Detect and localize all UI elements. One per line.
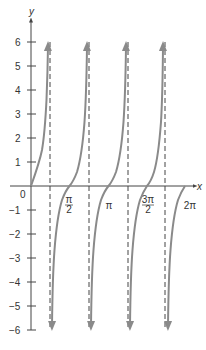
origin-label: 0	[20, 189, 26, 200]
svg-text:5: 5	[15, 61, 21, 72]
svg-text:2π: 2π	[184, 200, 197, 211]
svg-text:π: π	[106, 200, 113, 211]
x-tick-pi-over-2: π 2	[65, 194, 73, 215]
y-axis-label: y	[28, 6, 35, 17]
x-tick-3pi-over-2: 3π 2	[142, 194, 155, 215]
svg-text:3: 3	[15, 109, 21, 120]
svg-text:−6: −6	[9, 325, 21, 336]
svg-text:−5: −5	[9, 301, 21, 312]
svg-text:1: 1	[15, 157, 21, 168]
svg-text:−2: −2	[9, 229, 21, 240]
svg-text:2: 2	[66, 204, 72, 215]
curve-branch-5	[168, 186, 185, 326]
svg-text:−3: −3	[9, 253, 21, 264]
curve-branch-1	[31, 46, 48, 186]
svg-text:4: 4	[15, 85, 21, 96]
svg-text:−1: −1	[9, 205, 21, 216]
tan-2x-chart: y x 0 6 5 4 3 2 1 −1 −2 −3 −4 −5 −6 π	[0, 0, 206, 350]
svg-text:2: 2	[15, 133, 21, 144]
x-axis-label: x	[196, 181, 203, 192]
svg-text:−4: −4	[9, 277, 21, 288]
svg-text:2: 2	[145, 204, 151, 215]
svg-text:6: 6	[15, 37, 21, 48]
